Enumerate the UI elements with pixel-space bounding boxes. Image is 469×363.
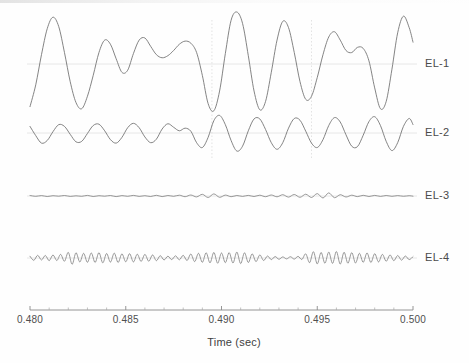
x-tick-label: 0.480 xyxy=(17,314,43,325)
x-tick-label: 0.490 xyxy=(208,314,234,325)
x-tick-label: 0.500 xyxy=(400,314,426,325)
x-axis-group xyxy=(30,306,413,310)
x-axis-title: Time (sec) xyxy=(207,336,261,348)
trace-canvas xyxy=(0,0,469,363)
channel-label-el-2: EL-2 xyxy=(425,126,449,138)
waveform-figure: EL-1EL-2EL-3EL-4 0.4800.4850.4900.4950.5… xyxy=(0,0,469,363)
channel-label-el-4: EL-4 xyxy=(425,251,449,263)
trace-el-3 xyxy=(30,193,413,198)
x-tick-label: 0.495 xyxy=(304,314,330,325)
channel-label-el-3: EL-3 xyxy=(425,189,449,201)
plot-area xyxy=(0,0,469,363)
channel-label-el-1: EL-1 xyxy=(425,57,449,69)
gridlines-group xyxy=(27,20,417,258)
trace-paths-group xyxy=(30,12,413,264)
trace-el-1 xyxy=(30,12,413,111)
x-tick-label: 0.485 xyxy=(113,314,139,325)
